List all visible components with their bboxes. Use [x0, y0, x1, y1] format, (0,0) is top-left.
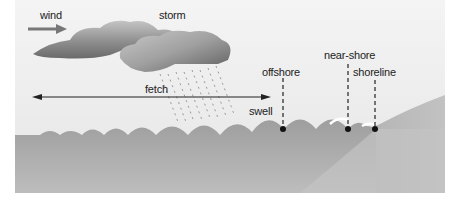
- fetch-label: fetch: [145, 83, 168, 95]
- shoreline-label: shoreline: [353, 66, 396, 78]
- near-shore-label: near-shore: [324, 49, 375, 61]
- storm-label: storm: [159, 9, 186, 21]
- offshore-label: offshore: [262, 66, 300, 78]
- ocean-wave-diagram: [0, 0, 460, 201]
- wind-label: wind: [40, 9, 62, 21]
- swell-label: swell: [249, 105, 272, 117]
- offshore-marker-dot: [280, 126, 286, 132]
- near-shore-marker-dot: [345, 126, 351, 132]
- shoreline-marker-dot: [372, 126, 378, 132]
